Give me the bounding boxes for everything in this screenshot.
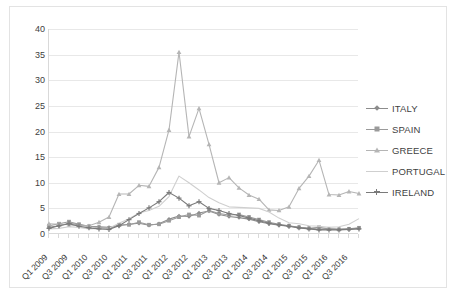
y-axis-tick-label: 20 bbox=[19, 127, 45, 136]
line-chart: 0510152025303540 Q1 2009Q3 2009Q1 2010Q3… bbox=[0, 0, 455, 299]
y-axis-tick-label: 10 bbox=[19, 178, 45, 187]
y-axis: 0510152025303540 bbox=[19, 29, 45, 234]
data-point-marker bbox=[127, 223, 131, 227]
data-point-marker bbox=[177, 50, 182, 54]
legend-item-ireland[interactable]: IRELAND bbox=[366, 183, 434, 201]
legend-label: GREECE bbox=[392, 145, 433, 156]
legend-marker-icon bbox=[374, 148, 380, 153]
series-line bbox=[49, 52, 359, 226]
y-axis-tick-label: 35 bbox=[19, 50, 45, 59]
series-line bbox=[49, 176, 359, 229]
series-line bbox=[49, 192, 359, 229]
legend-marker-icon bbox=[375, 127, 380, 132]
series-greece bbox=[47, 50, 362, 228]
legend-label: ITALY bbox=[392, 103, 418, 114]
data-point-marker bbox=[207, 142, 212, 146]
series-layer bbox=[49, 29, 359, 234]
legend-swatch-icon bbox=[366, 165, 388, 177]
data-point-marker bbox=[107, 215, 112, 219]
x-axis: Q1 2009Q3 2009Q1 2010Q3 2010Q1 2011Q3 20… bbox=[48, 238, 364, 290]
data-point-marker bbox=[187, 134, 192, 138]
legend-swatch-icon bbox=[366, 186, 388, 198]
chart-frame: 0510152025303540 Q1 2009Q3 2009Q1 2010Q3… bbox=[9, 6, 447, 288]
series-line bbox=[49, 210, 359, 229]
data-point-marker bbox=[157, 222, 161, 226]
y-axis-tick-label: 15 bbox=[19, 153, 45, 162]
data-point-marker bbox=[137, 211, 142, 216]
data-point-marker bbox=[187, 213, 191, 217]
data-point-marker bbox=[287, 204, 292, 208]
plot-area bbox=[48, 29, 358, 234]
y-axis-tick-label: 30 bbox=[19, 76, 45, 85]
data-point-marker bbox=[227, 175, 232, 179]
data-point-marker bbox=[167, 219, 171, 223]
data-point-marker bbox=[177, 215, 181, 219]
y-axis-tick-label: 5 bbox=[19, 204, 45, 213]
legend-marker-icon bbox=[374, 189, 380, 195]
data-point-marker bbox=[167, 128, 172, 132]
y-axis-tick-label: 25 bbox=[19, 101, 45, 110]
data-point-marker bbox=[347, 189, 352, 193]
legend-swatch-icon bbox=[366, 123, 388, 135]
legend-swatch-icon bbox=[366, 144, 388, 156]
data-point-marker bbox=[147, 223, 151, 227]
data-point-marker bbox=[157, 165, 162, 169]
legend-label: PORTUGAL bbox=[392, 166, 445, 177]
legend-item-portugal[interactable]: PORTUGAL bbox=[366, 162, 445, 180]
data-point-marker bbox=[137, 220, 141, 224]
y-axis-tick-label: 0 bbox=[19, 230, 45, 239]
data-point-marker bbox=[97, 220, 102, 224]
data-point-marker bbox=[197, 214, 201, 218]
legend-marker-icon bbox=[374, 105, 380, 111]
legend: ITALYSPAINGREECEPORTUGALIRELAND bbox=[366, 99, 454, 203]
legend-item-italy[interactable]: ITALY bbox=[366, 99, 418, 117]
data-point-marker bbox=[317, 158, 322, 162]
series-portugal bbox=[49, 176, 359, 229]
legend-label: IRELAND bbox=[392, 187, 434, 198]
data-point-marker bbox=[197, 106, 202, 110]
legend-label: SPAIN bbox=[392, 124, 421, 135]
legend-swatch-icon bbox=[366, 102, 388, 114]
legend-item-spain[interactable]: SPAIN bbox=[366, 120, 421, 138]
legend-item-greece[interactable]: GREECE bbox=[366, 141, 433, 159]
y-axis-tick-label: 40 bbox=[19, 25, 45, 34]
data-point-marker bbox=[217, 180, 222, 184]
